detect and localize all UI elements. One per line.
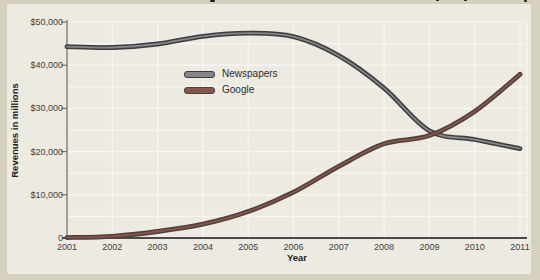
x-tick-label: 2009 (419, 242, 439, 252)
y-tick-label: $30,000 (30, 103, 63, 113)
revenues-line-chart: 0$10,000$20,000$30,000$40,000$50,0002001… (0, 0, 540, 280)
legend-item-newspapers: Newspapers (184, 68, 278, 80)
page: { "page": { "outer_background": "#d6d1bf… (0, 0, 540, 280)
newspapers-line-swatch (184, 71, 215, 78)
x-axis-title: Year (67, 252, 527, 263)
x-tick-label: 2006 (283, 242, 303, 252)
x-tick-label: 2011 (510, 242, 529, 252)
x-tick-label: 2002 (102, 242, 122, 252)
x-tick-label: 2001 (57, 242, 77, 252)
y-tick-label: $10,000 (30, 190, 63, 200)
x-tick-label: 2003 (148, 242, 168, 252)
x-tick-label: 2008 (374, 242, 394, 252)
x-tick-label: 2007 (329, 242, 349, 252)
x-tick-label: 2004 (193, 242, 213, 252)
google-line-swatch (184, 87, 215, 94)
legend-item-google: Google (184, 84, 278, 96)
legend-label-newspapers: Newspapers (222, 68, 278, 80)
x-tick-label: 2010 (465, 242, 485, 252)
y-axis-title-wrap: Revenues in millions (4, 22, 24, 238)
legend-label-google: Google (222, 84, 254, 96)
y-tick-label: $50,000 (30, 17, 63, 27)
chart-legend: Newspapers Google (184, 68, 278, 96)
y-tick-label: $40,000 (30, 60, 63, 70)
x-tick-label: 2005 (238, 242, 258, 252)
y-axis-title: Revenues in millions (9, 83, 20, 178)
y-tick-label: $20,000 (30, 147, 63, 157)
